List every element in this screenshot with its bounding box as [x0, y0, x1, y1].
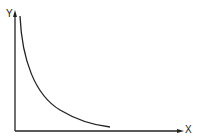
y-axis-label: Y	[6, 9, 13, 19]
x-axis-label: X	[185, 125, 192, 135]
y-axis-arrow-icon	[13, 10, 17, 17]
x-axis-arrow-icon	[177, 129, 184, 133]
curve	[20, 16, 110, 127]
x-axis	[15, 129, 184, 133]
diagram-canvas	[0, 0, 199, 140]
y-axis	[13, 10, 17, 131]
